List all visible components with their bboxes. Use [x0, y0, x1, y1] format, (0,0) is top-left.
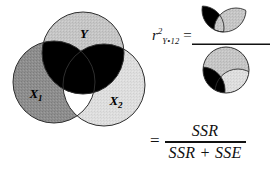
ss-denominator: SSR + SSE [165, 143, 246, 162]
r-squared-notation: r2Y•12= [152, 27, 192, 46]
venn-label-y: Y [80, 26, 89, 41]
venn-diagram: Y X1 X2 [0, 0, 160, 145]
fraction-denominator-shape [190, 45, 272, 100]
pictorial-fraction [190, 0, 272, 100]
r-subscript: Y•12 [162, 36, 179, 46]
figure-root: Y X1 X2 r2Y•12= [0, 0, 272, 169]
ss-fraction: SSR SSR + SSE [165, 122, 246, 161]
r-superscript: 2 [158, 26, 163, 36]
ss-formula: = SSR SSR + SSE [150, 116, 272, 168]
ss-numerator: SSR [186, 122, 225, 141]
fraction-bar-top [192, 44, 270, 46]
equals-sign-bottom: = [150, 131, 160, 153]
